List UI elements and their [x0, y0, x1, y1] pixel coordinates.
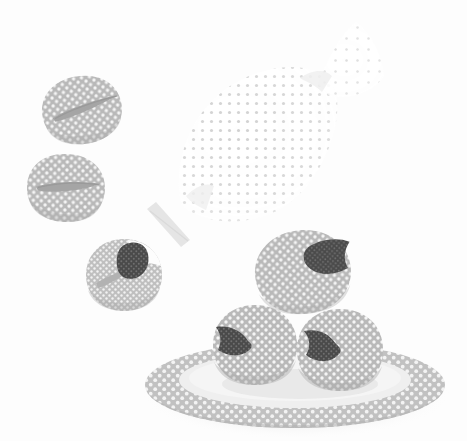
halftone-fruit-artwork	[0, 0, 467, 441]
illustration-canvas: Halftone grayscale illustration of fruit…	[0, 0, 467, 441]
fruit-plate-left	[213, 305, 297, 385]
fruit-small-leaf	[86, 239, 162, 311]
fruit-plate-right	[297, 309, 383, 391]
